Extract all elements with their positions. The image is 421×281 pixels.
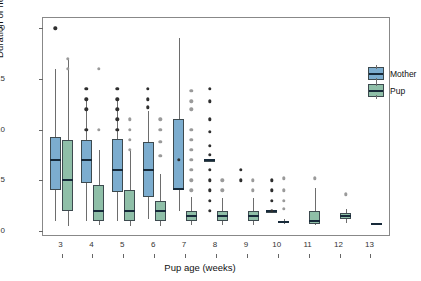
x-axis-tick-label: 6 bbox=[151, 240, 155, 249]
boxplot-median bbox=[217, 215, 228, 217]
outlier-point bbox=[208, 168, 211, 171]
y-axis-tick-label: 0 bbox=[1, 225, 5, 234]
whisker-upper bbox=[130, 150, 131, 191]
x-axis-tick-label: 13 bbox=[365, 240, 374, 249]
outlier-point bbox=[208, 179, 211, 182]
outlier-point bbox=[128, 128, 131, 131]
boxplot-median bbox=[371, 223, 382, 225]
outlier-point bbox=[85, 87, 88, 90]
boxplot-box bbox=[173, 119, 184, 190]
y-axis-tick-label: 15 bbox=[0, 73, 5, 82]
y-axis-tick-mark bbox=[39, 231, 43, 232]
boxplot-median bbox=[112, 169, 123, 171]
x-axis-tick-mark bbox=[247, 254, 248, 258]
x-axis-tick-label: 10 bbox=[272, 240, 281, 249]
boxplot-box bbox=[124, 190, 135, 220]
whisker-lower bbox=[148, 197, 149, 218]
outlier-point bbox=[66, 67, 69, 70]
outlier-point bbox=[313, 177, 316, 180]
y-axis-tick-label: 10 bbox=[0, 124, 5, 133]
x-axis-tick-label: 9 bbox=[244, 240, 248, 249]
outlier-point bbox=[344, 193, 347, 196]
legend-key-pup-boxplot-icon bbox=[368, 84, 384, 97]
outlier-point bbox=[159, 154, 162, 157]
boxplot-median bbox=[186, 215, 197, 217]
whisker-lower bbox=[160, 221, 161, 226]
boxplot-median bbox=[204, 159, 215, 161]
outlier-point bbox=[208, 153, 211, 156]
outlier-point bbox=[190, 189, 193, 192]
whisker-lower bbox=[86, 183, 87, 221]
boxplot-median bbox=[124, 210, 135, 212]
outlier-point bbox=[159, 118, 162, 121]
outlier-point bbox=[270, 189, 273, 192]
whisker-lower bbox=[284, 223, 285, 224]
outlier-point bbox=[190, 179, 193, 182]
x-axis-tick-mark bbox=[278, 254, 279, 258]
x-axis-tick-label: 7 bbox=[182, 240, 186, 249]
boxplot-median bbox=[309, 220, 320, 222]
outlier-point bbox=[282, 199, 285, 202]
outlier-point bbox=[115, 87, 118, 90]
x-axis-tick-mark bbox=[123, 254, 124, 258]
whisker-upper bbox=[191, 197, 192, 210]
y-axis-tick-mark bbox=[39, 28, 43, 29]
outlier-point bbox=[190, 138, 193, 141]
whisker-lower bbox=[117, 192, 118, 220]
outlier-point bbox=[54, 26, 57, 29]
whisker-lower bbox=[222, 221, 223, 225]
x-axis-tick-mark bbox=[185, 254, 186, 258]
boxplot-box bbox=[309, 211, 320, 224]
boxplot-median bbox=[81, 159, 92, 161]
boxplot-median bbox=[340, 215, 351, 217]
outlier-point bbox=[159, 140, 162, 143]
outlier-point bbox=[282, 207, 285, 210]
whisker-lower bbox=[68, 211, 69, 226]
outlier-point bbox=[190, 148, 193, 151]
x-axis-tick-mark bbox=[216, 254, 217, 258]
boxplot-box bbox=[81, 140, 92, 184]
legend-item-pup: Pup bbox=[368, 82, 421, 99]
x-axis-tick-label: 3 bbox=[58, 240, 62, 249]
outlier-point bbox=[208, 199, 211, 202]
whisker-upper bbox=[160, 174, 161, 200]
whisker-lower bbox=[130, 221, 131, 226]
y-axis-tick-label: 5 bbox=[1, 175, 5, 184]
x-axis-tick-label: 11 bbox=[304, 240, 312, 249]
x-axis-tick-label: 4 bbox=[89, 240, 93, 249]
legend: Mother Pup bbox=[368, 65, 421, 99]
outlier-point bbox=[115, 108, 118, 111]
outlier-point bbox=[220, 179, 223, 182]
outlier-point bbox=[128, 138, 131, 141]
outlier-point bbox=[66, 57, 69, 60]
legend-label-pup: Pup bbox=[390, 86, 405, 96]
outlier-point bbox=[85, 128, 88, 131]
outlier-point bbox=[146, 97, 149, 100]
outlier-point bbox=[282, 177, 285, 180]
whisker-lower bbox=[191, 221, 192, 225]
whisker-upper bbox=[315, 188, 316, 210]
x-axis-tick-label: 5 bbox=[120, 240, 124, 249]
outlier-point bbox=[190, 128, 193, 131]
outlier-point bbox=[251, 189, 254, 192]
outlier-point bbox=[115, 128, 118, 131]
boxplot-median bbox=[278, 221, 289, 223]
whisker-upper bbox=[148, 111, 149, 141]
x-axis-tick-label: 8 bbox=[213, 240, 217, 249]
outlier-point bbox=[115, 118, 118, 121]
y-axis-tick-mark bbox=[39, 180, 43, 181]
boxplot-median bbox=[155, 210, 166, 212]
whisker-upper bbox=[253, 198, 254, 210]
x-axis-title: Pup age (weeks) bbox=[0, 262, 400, 273]
boxplot-box bbox=[50, 137, 61, 191]
outlier-point bbox=[97, 128, 100, 131]
boxplot-box bbox=[93, 185, 104, 220]
whisker-upper bbox=[99, 150, 100, 185]
whisker-lower bbox=[346, 219, 347, 223]
plot-area bbox=[43, 18, 389, 235]
outlier-point bbox=[208, 118, 211, 121]
x-axis-tick-mark bbox=[92, 254, 93, 258]
outlier-point bbox=[282, 189, 285, 192]
y-axis-tick-mark bbox=[39, 79, 43, 80]
